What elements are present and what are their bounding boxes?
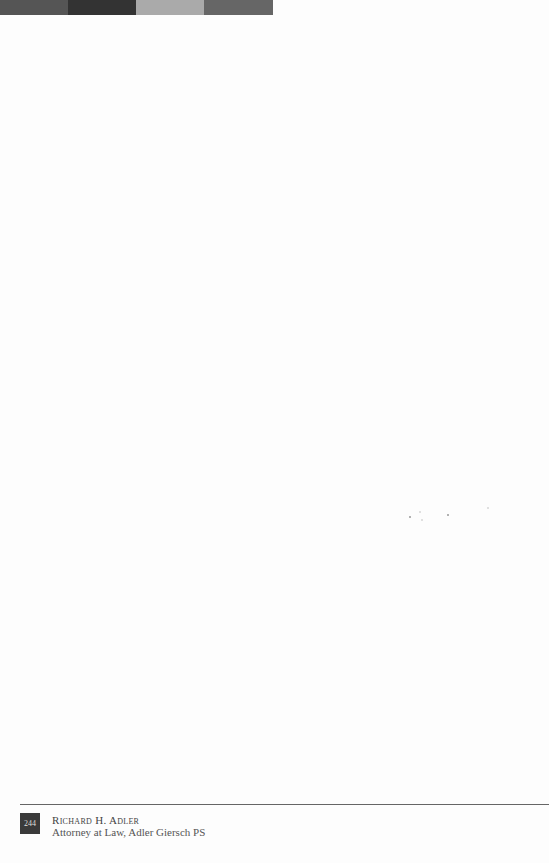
color-block-1 [0,0,68,15]
footer-rule [20,804,549,805]
page-number: 244 [20,813,40,834]
color-block-4 [204,0,273,15]
color-block-3 [136,0,204,15]
scan-specks [380,500,510,540]
speck-marks-icon [380,500,510,540]
header-color-bar [0,0,273,15]
color-block-2 [68,0,136,15]
author-affiliation: Attorney at Law, Adler Giersch PS [52,826,205,838]
author-name: Richard H. Adler [52,814,139,826]
